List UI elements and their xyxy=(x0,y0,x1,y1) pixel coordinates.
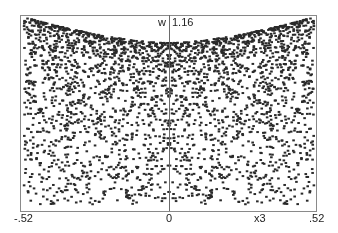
x-min-tick-label: -.52 xyxy=(14,212,33,224)
scatter-plot-area xyxy=(0,0,338,233)
x-axis-name: x3 xyxy=(254,212,266,224)
x-zero-tick-label: 0 xyxy=(166,212,172,224)
y-axis-name: w xyxy=(158,16,166,28)
x-max-tick-label: .52 xyxy=(309,212,324,224)
y-max-tick-label: 1.16 xyxy=(172,16,193,28)
